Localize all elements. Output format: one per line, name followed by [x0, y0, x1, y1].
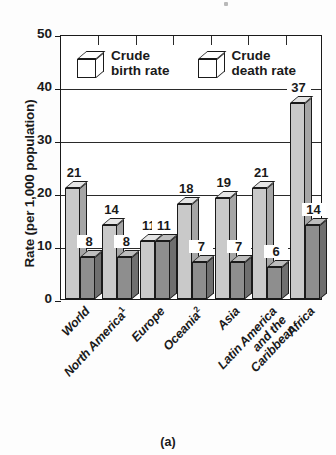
bar-front-face — [155, 241, 170, 299]
bar — [155, 241, 170, 299]
bar-value-label: 8 — [114, 235, 138, 248]
scan-speck — [224, 2, 228, 6]
bar-value-label: 7 — [227, 240, 251, 253]
bar — [192, 262, 207, 299]
bar-side-face — [320, 219, 327, 299]
bar-front-face — [230, 262, 245, 299]
bar-front-face — [305, 225, 320, 299]
legend: Crude birth rate Crude death rate — [77, 48, 296, 78]
bar-front-face — [267, 267, 282, 299]
bar-side-face — [170, 235, 177, 299]
bar — [230, 262, 245, 299]
figure-caption: (a) — [0, 435, 336, 449]
bar-value-label: 11 — [152, 219, 176, 232]
bar-front-face — [80, 257, 95, 299]
bar-side-face — [132, 251, 139, 299]
y-tick-label: 20 — [2, 185, 52, 200]
bar — [290, 103, 305, 299]
bar-value-label: 14 — [302, 203, 326, 216]
bar-side-face — [207, 256, 214, 299]
legend-label-death-rate: Crude death rate — [232, 48, 297, 78]
y-tick-label: 50 — [2, 26, 52, 41]
bar-value-label: 7 — [189, 240, 213, 253]
bar-front-face — [192, 262, 207, 299]
bar-value-label: 8 — [77, 235, 101, 248]
y-tick-mark — [55, 301, 61, 302]
bar-value-label: 14 — [99, 203, 123, 216]
bar — [117, 257, 132, 299]
cube-icon — [198, 48, 225, 78]
bar — [267, 267, 282, 299]
bar — [80, 257, 95, 299]
bar-front-face — [117, 257, 132, 299]
y-tick-label: 30 — [2, 132, 52, 147]
bar-front-face — [290, 103, 305, 299]
legend-label-birth-rate: Crude birth rate — [111, 48, 170, 78]
y-tick-mark — [55, 36, 61, 37]
bar-value-label: 19 — [212, 176, 236, 189]
figure-panel: Rate (per 1,000 population) 01020304050 … — [0, 0, 336, 455]
bar-value-label: 18 — [174, 182, 198, 195]
bar — [252, 188, 267, 299]
bar-value-label: 21 — [62, 166, 86, 179]
bar-value-label: 6 — [264, 245, 288, 258]
legend-item-birth-rate: Crude birth rate — [77, 48, 170, 78]
legend-item-death-rate: Crude death rate — [198, 48, 297, 78]
bar — [305, 225, 320, 299]
y-tick-label: 40 — [2, 79, 52, 94]
bar-front-face — [252, 188, 267, 299]
bar-value-label: 37 — [287, 81, 311, 94]
plot-area: 21814811111871972163714 Crude birth rate… — [60, 35, 322, 300]
y-tick-label: 10 — [2, 238, 52, 253]
bar — [140, 241, 155, 299]
bar-side-face — [95, 251, 102, 299]
y-axis-title: Rate (per 1,000 population) — [22, 59, 37, 309]
bar-front-face — [140, 241, 155, 299]
bar-side-face — [245, 256, 252, 299]
bar-value-label: 21 — [249, 166, 273, 179]
bar-side-face — [282, 261, 289, 299]
cube-icon — [77, 48, 104, 78]
y-tick-label: 0 — [2, 291, 52, 306]
